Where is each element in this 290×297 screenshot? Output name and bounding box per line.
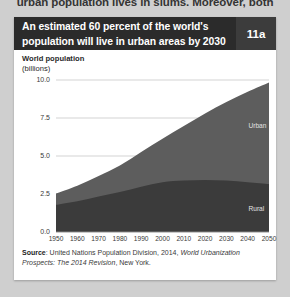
y-axis-tick: 0.0	[28, 228, 50, 235]
y-axis-tick: 7.5	[28, 114, 50, 121]
figure-panel: An estimated 60 percent of the world's p…	[14, 17, 276, 280]
series-label-urban: Urban	[248, 122, 266, 129]
source-text-b: , New York.	[115, 259, 150, 266]
source-label: Source	[22, 249, 46, 256]
y-axis-tick: 2.5	[28, 190, 50, 197]
figure-source: Source: United Nations Population Divisi…	[22, 248, 268, 268]
x-axis-tick: 2050	[256, 235, 282, 242]
stacked-area-chart	[14, 17, 276, 242]
y-axis-tick: 10.0	[28, 76, 50, 83]
chart-plot-area: 0.02.55.07.510.0 19501960197019801990200…	[14, 17, 276, 242]
page-body-text-bleed: urban population lives in slums. Moreove…	[0, 0, 290, 10]
series-label-rural: Rural	[248, 205, 264, 212]
source-text-a: : United Nations Population Division, 20…	[46, 249, 181, 256]
page-root: urban population lives in slums. Moreove…	[0, 0, 290, 297]
y-axis-tick: 5.0	[28, 152, 50, 159]
